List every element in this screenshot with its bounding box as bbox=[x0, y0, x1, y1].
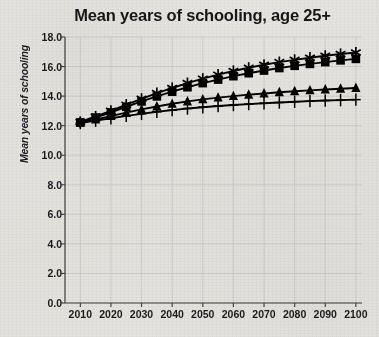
series-1-asterisk bbox=[75, 47, 360, 128]
chart-figure: Mean years of schooling, age 25+ Mean ye… bbox=[0, 0, 379, 337]
plot-canvas bbox=[0, 0, 379, 337]
axis-lines bbox=[61, 37, 362, 307]
